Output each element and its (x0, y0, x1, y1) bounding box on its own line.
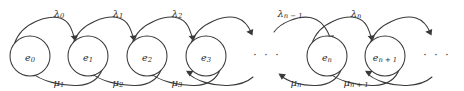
state-node-e1[interactable]: e1 (68, 36, 108, 76)
rate-label-lambda2: λ2 (171, 8, 183, 20)
rate-label-mu-n-plus-1: μn + 1 (343, 77, 368, 89)
rate-label-mu1: μ1 (54, 77, 65, 89)
death-rate-labels: μ1 μ2 μ3 μn μn + 1 (54, 77, 369, 89)
arrow-head (186, 71, 194, 77)
state-node-en-plus-1[interactable]: en + 1 (365, 36, 405, 76)
state-nodes: e0 e1 e2 e3 en en + 1 (10, 36, 405, 76)
arrow-head (365, 71, 373, 77)
continuation-ellipses: · · · · · · (253, 49, 450, 62)
rate-label-mu2: μ2 (113, 77, 124, 89)
rate-label-lambda-n: λn (350, 8, 362, 20)
rate-label-mu-n: μn (291, 77, 302, 89)
birth-rate-labels: λ0 λ1 λ2 λn − 1 λn (53, 8, 362, 20)
ellipsis-middle: · · · (253, 49, 280, 62)
birth-death-diagram-figure: e0 e1 e2 e3 en en + 1 (0, 0, 464, 91)
state-node-e0[interactable]: e0 (10, 36, 50, 76)
rate-label-mu3: μ3 (172, 77, 183, 89)
diagram-canvas: e0 e1 e2 e3 en en + 1 (0, 0, 464, 91)
rate-label-lambda1: λ1 (112, 8, 124, 20)
state-node-e3[interactable]: e3 (186, 36, 226, 76)
state-node-e2[interactable]: e2 (127, 36, 167, 76)
ellipsis-right: · · · (423, 49, 450, 62)
state-node-en[interactable]: en (307, 36, 347, 76)
rate-label-lambda-n-minus-1: λn − 1 (276, 8, 302, 20)
rate-label-lambda0: λ0 (53, 8, 65, 20)
